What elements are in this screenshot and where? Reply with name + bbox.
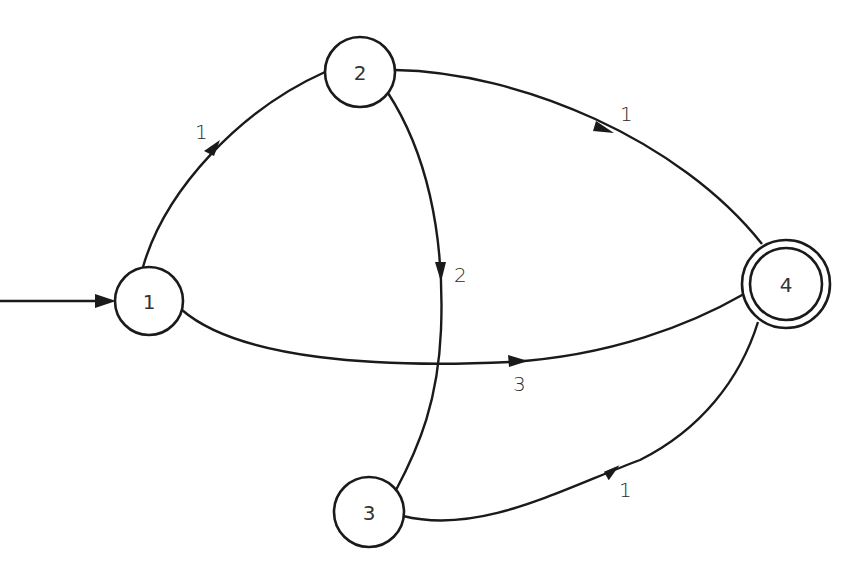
edge-1-to-2: 1 — [143, 72, 325, 267]
node-2: 2 — [325, 37, 395, 107]
state-diagram: 1 1 2 3 1 1 2 3 4 — [0, 0, 858, 579]
edge-label: 1 — [620, 102, 633, 126]
arrowhead-icon — [95, 294, 116, 308]
node-label: 2 — [354, 61, 367, 85]
edge-label: 1 — [195, 120, 208, 144]
edge-label: 1 — [619, 478, 632, 502]
edge-3-to-4: 1 — [403, 322, 758, 521]
node-label: 3 — [363, 501, 376, 525]
node-3: 3 — [334, 477, 404, 547]
edge-label: 2 — [454, 263, 467, 287]
arrowhead-icon — [508, 355, 528, 367]
node-label: 4 — [780, 273, 793, 297]
node-label: 1 — [143, 290, 156, 314]
edge-2-to-4: 1 — [395, 70, 762, 244]
node-4-accepting: 4 — [742, 240, 830, 328]
edge-label: 3 — [513, 372, 526, 396]
edge-2-to-3: 2 — [388, 93, 467, 490]
arrowhead-icon — [435, 262, 446, 282]
start-arrow — [0, 294, 116, 308]
node-1: 1 — [115, 267, 183, 335]
edge-1-to-4: 3 — [182, 294, 744, 396]
